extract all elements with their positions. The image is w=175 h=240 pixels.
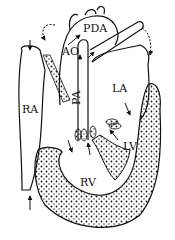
label-rv: RV [80,176,97,189]
label-la: LA [112,82,128,95]
label-ra: RA [22,103,39,116]
label-ao: AO [61,45,79,58]
label-pa: PA [70,90,83,105]
label-pda: PDA [83,22,108,35]
ventricle-wall [35,84,161,228]
pulmonary-artery [78,40,88,140]
label-lv: LV [123,140,138,153]
heart-diagram: PDA AO PA LA RA LV RV [0,0,175,240]
